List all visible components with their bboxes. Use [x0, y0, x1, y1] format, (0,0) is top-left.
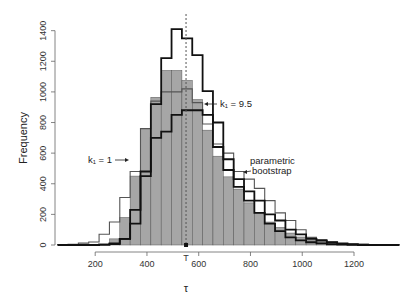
tick-label: 1200: [344, 259, 364, 269]
y-axis-title: Frequency: [17, 112, 29, 164]
tick-label: 600: [38, 146, 48, 161]
histogram-bar: [213, 156, 223, 245]
k1-1-annotation: k₁ = 1: [88, 154, 112, 165]
tick-label: 400: [139, 259, 154, 269]
histogram-bar: [275, 227, 285, 245]
tick-label: 400: [38, 176, 48, 191]
tick-label: 800: [38, 115, 48, 130]
histogram-bar: [265, 222, 275, 245]
histogram-bar: [120, 217, 130, 245]
histogram-bar: [140, 129, 150, 245]
tick-label: 0: [38, 242, 48, 247]
tick-label: 1000: [38, 82, 48, 102]
t-marker: [184, 243, 188, 247]
k1-9.5-arrowhead: [204, 102, 208, 106]
tick-label: 200: [88, 259, 103, 269]
k1-1-arrowhead: [125, 158, 129, 162]
histogram-bar: [254, 213, 264, 245]
tick-label: 200: [38, 207, 48, 222]
histogram-bar: [203, 130, 213, 245]
tick-label: 1400: [38, 21, 48, 41]
histogram-bar: [172, 70, 182, 245]
t-label: T: [183, 253, 189, 263]
histogram-bar: [182, 80, 192, 245]
histogram-bar: [244, 203, 254, 245]
histogram-bar: [161, 70, 171, 245]
tick-label: 1200: [38, 51, 48, 71]
k1-9.5-annotation: k₁ = 9.5: [220, 98, 252, 109]
tick-label: 1000: [292, 259, 312, 269]
tick-label: 800: [243, 259, 258, 269]
histogram-bar: [223, 177, 233, 245]
histogram-bar: [285, 233, 295, 245]
histogram-bar: [192, 100, 202, 245]
tick-label: 600: [191, 259, 206, 269]
histogram-chart: 0200400600800100012001400200400600800100…: [0, 0, 410, 305]
histogram-bar: [234, 189, 244, 245]
x-axis-title: τ: [184, 282, 189, 294]
histogram-bar: [151, 97, 161, 245]
parametric-annotation-line2: bootstrap: [252, 165, 292, 176]
